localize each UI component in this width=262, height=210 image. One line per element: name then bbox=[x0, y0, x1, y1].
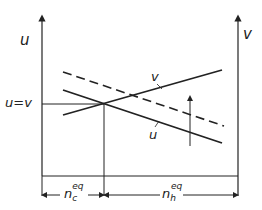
equality-label: u=v bbox=[5, 96, 32, 109]
left-axis-label: u bbox=[20, 33, 30, 48]
dim-left-main: n bbox=[64, 186, 72, 201]
curve-u-shifted bbox=[63, 72, 224, 126]
dim-right-sub: h bbox=[170, 193, 176, 203]
diagram-canvas bbox=[0, 0, 262, 210]
dim-right-main: n bbox=[162, 186, 170, 201]
curve-u-label: u bbox=[149, 128, 157, 141]
dim-left-label: nceq bbox=[64, 187, 88, 200]
curve-v-label: v bbox=[151, 70, 159, 83]
dim-left-sup: eq bbox=[72, 181, 83, 191]
curve-v bbox=[63, 70, 222, 115]
dim-right-label: nheq bbox=[162, 187, 187, 200]
dim-right-sup: eq bbox=[171, 181, 182, 191]
right-axis-label: v bbox=[243, 27, 252, 42]
dim-left-sub: c bbox=[72, 193, 77, 203]
